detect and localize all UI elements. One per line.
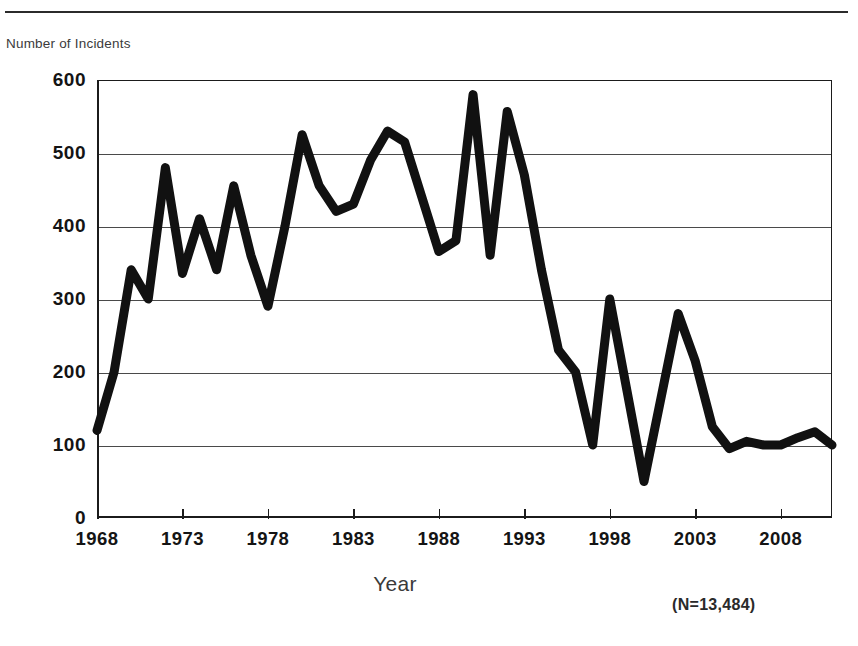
x-axis-tick-mark bbox=[781, 509, 783, 519]
x-axis-tick-mark bbox=[610, 509, 612, 519]
x-axis-tick-labels: 196819731978198319881993199820032008 bbox=[0, 0, 858, 646]
x-axis-tick-label: 1978 bbox=[247, 528, 290, 550]
x-axis-tick-label: 1983 bbox=[332, 528, 375, 550]
x-axis-tick-mark bbox=[439, 509, 441, 519]
x-axis-tick-mark bbox=[524, 509, 526, 519]
sample-size-note: (N=13,484) bbox=[672, 596, 756, 614]
x-axis-tick-label: 1973 bbox=[161, 528, 204, 550]
x-axis-tick-mark bbox=[182, 509, 184, 519]
line-chart: 6005004003002001000 19681973197819831988… bbox=[0, 0, 858, 646]
x-axis-title: Year bbox=[0, 572, 790, 596]
x-axis-tick-label: 1988 bbox=[417, 528, 460, 550]
x-axis-tick-label: 1968 bbox=[76, 528, 119, 550]
x-axis-tick-mark bbox=[97, 509, 99, 519]
x-axis-tick-mark bbox=[353, 509, 355, 519]
x-axis-tick-mark bbox=[695, 509, 697, 519]
x-axis-tick-label: 2008 bbox=[759, 528, 802, 550]
x-axis-tick-label: 2003 bbox=[674, 528, 717, 550]
x-axis-tick-mark bbox=[268, 509, 270, 519]
x-axis-tick-label: 1993 bbox=[503, 528, 546, 550]
x-axis-tick-label: 1998 bbox=[588, 528, 631, 550]
